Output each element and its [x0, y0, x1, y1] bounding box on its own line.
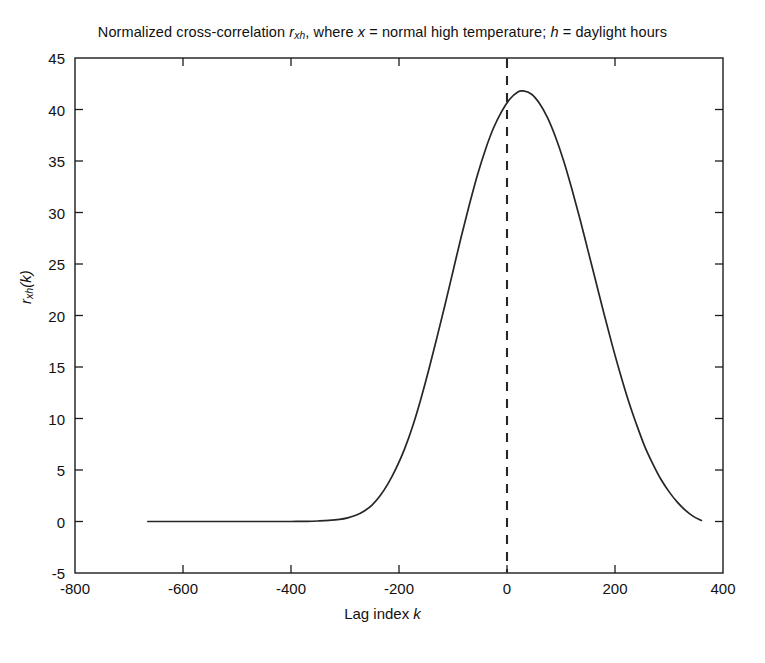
y-tick-label: 45: [13, 50, 65, 67]
yaxis-label-arg: (k): [17, 270, 34, 288]
cross-correlation-curve: [148, 91, 702, 522]
y-tick-label: -5: [13, 565, 65, 582]
y-axis-label: rxh(k): [17, 237, 35, 337]
y-tick-label: 35: [13, 153, 65, 170]
x-tick-label: -800: [60, 580, 90, 597]
plot-canvas: [0, 0, 765, 663]
x-tick-marks: [183, 58, 615, 573]
xaxis-label-var: k: [413, 605, 421, 622]
y-tick-label: 0: [13, 513, 65, 530]
x-tick-label: -600: [168, 580, 198, 597]
yaxis-label-base: r: [17, 299, 34, 304]
x-axis-label: Lag index k: [0, 605, 765, 622]
x-tick-label: 200: [602, 580, 627, 597]
y-tick-label: 10: [13, 410, 65, 427]
figure-container: Normalized cross-correlation rxh, where …: [0, 0, 765, 663]
x-tick-label: 0: [503, 580, 511, 597]
xaxis-label-text: Lag index: [344, 605, 413, 622]
y-tick-marks: [75, 110, 723, 522]
y-tick-label: 5: [13, 462, 65, 479]
x-tick-label: 400: [710, 580, 735, 597]
plot-frame: [75, 58, 723, 573]
y-tick-label: 15: [13, 359, 65, 376]
yaxis-label-sub: xh: [23, 288, 35, 299]
x-tick-label: -200: [384, 580, 414, 597]
y-tick-label: 30: [13, 204, 65, 221]
y-tick-label: 40: [13, 101, 65, 118]
x-tick-label: -400: [276, 580, 306, 597]
